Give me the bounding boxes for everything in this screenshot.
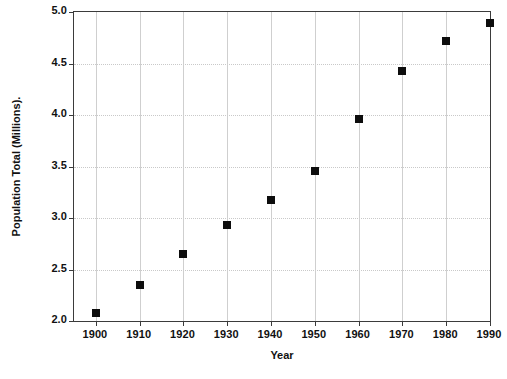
x-gridline xyxy=(96,12,97,321)
y-axis-tick-label: 3.5 xyxy=(33,159,67,171)
y-gridline xyxy=(74,64,490,65)
y-gridline xyxy=(74,115,490,116)
x-axis-tick-label: 1910 xyxy=(115,328,163,340)
x-gridline xyxy=(271,12,272,321)
y-axis-title: Population Total (Millions). xyxy=(6,11,26,322)
data-point xyxy=(311,167,319,175)
x-gridline xyxy=(183,12,184,321)
y-axis-tick-label: 4.0 xyxy=(33,107,67,119)
y-axis-tick-label: 2.0 xyxy=(33,313,67,325)
x-axis-title: Year xyxy=(73,349,491,361)
x-axis-tick-label: 1930 xyxy=(202,328,250,340)
x-axis-tick xyxy=(359,321,360,326)
x-axis-tick xyxy=(140,321,141,326)
x-axis-tick-label: 1940 xyxy=(246,328,294,340)
data-point xyxy=(398,67,406,75)
x-axis-tick-label: 1900 xyxy=(71,328,119,340)
data-point xyxy=(355,115,363,123)
x-axis-tick xyxy=(227,321,228,326)
scatter-chart-figure: Population Total (Millions). 2.02.53.03.… xyxy=(0,0,507,379)
x-axis-tick xyxy=(446,321,447,326)
x-gridline xyxy=(446,12,447,321)
y-axis-tick xyxy=(69,115,74,116)
x-axis-tick xyxy=(271,321,272,326)
x-axis-tick-label: 1950 xyxy=(290,328,338,340)
plot-area xyxy=(73,11,491,322)
y-axis-tick-label: 4.5 xyxy=(33,56,67,68)
x-gridline xyxy=(227,12,228,321)
data-point xyxy=(92,309,100,317)
x-axis-tick xyxy=(183,321,184,326)
x-axis-tick xyxy=(490,321,491,326)
y-axis-tick xyxy=(69,321,74,322)
y-axis-tick xyxy=(69,167,74,168)
data-point xyxy=(442,37,450,45)
x-axis-tick-label: 1960 xyxy=(334,328,382,340)
y-axis-tick xyxy=(69,270,74,271)
x-gridline xyxy=(359,12,360,321)
x-gridline xyxy=(140,12,141,321)
x-gridline xyxy=(402,12,403,321)
x-axis-tick-label: 1970 xyxy=(377,328,425,340)
y-gridline xyxy=(74,218,490,219)
figure-caption xyxy=(8,371,308,379)
data-point xyxy=(136,281,144,289)
y-axis-tick xyxy=(69,64,74,65)
y-axis-tick xyxy=(69,12,74,13)
data-point xyxy=(223,221,231,229)
y-axis-tick-labels: 2.02.53.03.54.04.55.0 xyxy=(29,11,67,322)
x-axis-tick-label: 1920 xyxy=(158,328,206,340)
x-axis-tick-labels: 1900191019201930194019501960197019801990 xyxy=(73,328,491,344)
x-axis-tick xyxy=(402,321,403,326)
y-axis-tick-label: 5.0 xyxy=(33,4,67,16)
data-point xyxy=(179,250,187,258)
y-gridline xyxy=(74,167,490,168)
data-point xyxy=(267,196,275,204)
data-point xyxy=(486,19,494,27)
x-axis-tick-label: 1980 xyxy=(421,328,469,340)
y-gridline xyxy=(74,270,490,271)
x-axis-tick xyxy=(96,321,97,326)
y-axis-tick-label: 2.5 xyxy=(33,262,67,274)
x-axis-tick xyxy=(315,321,316,326)
x-axis-tick-label: 1990 xyxy=(465,328,507,340)
y-axis-tick-label: 3.0 xyxy=(33,210,67,222)
y-axis-tick xyxy=(69,218,74,219)
